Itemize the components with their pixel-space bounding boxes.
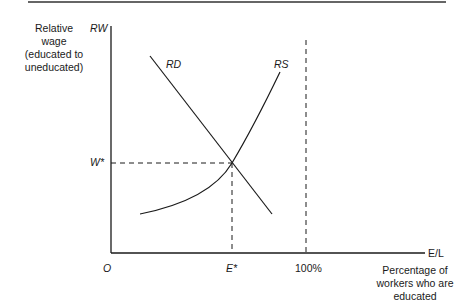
rs-label: RS	[274, 58, 289, 71]
x-axis-description: Percentage of workers who are educated	[370, 264, 460, 303]
limit-label: 100%	[295, 262, 322, 275]
y-axis-description: Relative wage (educated to uneducated)	[14, 22, 94, 74]
wage-label: W*	[90, 156, 104, 169]
origin-label: O	[103, 262, 111, 275]
x-axis-symbol: E/L	[428, 247, 444, 260]
rd-curve	[150, 56, 272, 214]
rs-curve	[140, 72, 280, 214]
rd-label: RD	[166, 58, 181, 71]
y-axis-symbol: RW	[90, 22, 107, 35]
quantity-label: E*	[226, 262, 237, 275]
